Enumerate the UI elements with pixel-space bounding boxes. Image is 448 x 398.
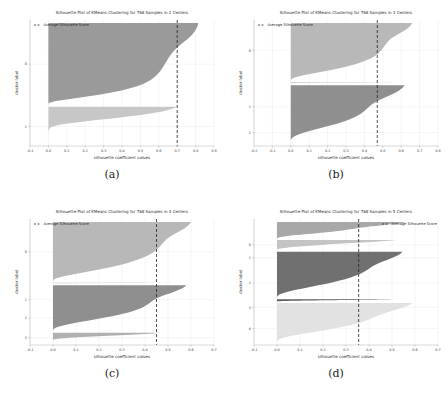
silhouette-chart-b: -0.2-0.10.00.10.20.30.40.50.60.70.8012Si…: [224, 0, 448, 170]
svg-text:0.8: 0.8: [435, 149, 440, 153]
panel-c: -0.10.00.10.20.30.40.50.60.70123Silhouet…: [0, 199, 224, 398]
svg-text:0.4: 0.4: [142, 348, 147, 352]
svg-text:cluster label: cluster label: [14, 71, 19, 96]
svg-text:0.2: 0.2: [325, 149, 330, 153]
panel-caption-a: (a): [0, 168, 224, 181]
silhouette-chart-d: -0.10.00.10.20.30.40.50.60.701234Silhoue…: [224, 199, 448, 369]
svg-text:Average Silhouette Score: Average Silhouette Score: [44, 222, 90, 226]
svg-text:1: 1: [25, 298, 27, 302]
svg-text:Average Silhouette Score: Average Silhouette Score: [392, 222, 438, 226]
svg-text:0.6: 0.6: [188, 348, 193, 352]
svg-text:0: 0: [25, 62, 27, 66]
svg-text:-0.2: -0.2: [251, 149, 258, 153]
svg-text:0.7: 0.7: [174, 149, 179, 153]
panel-caption-b: (b): [224, 168, 448, 181]
svg-text:2: 2: [249, 131, 251, 135]
svg-text:0.5: 0.5: [165, 348, 170, 352]
svg-text:-0.1: -0.1: [269, 149, 276, 153]
svg-text:0.5: 0.5: [389, 348, 394, 352]
svg-text:-0.1: -0.1: [251, 348, 258, 352]
svg-text:0.0: 0.0: [46, 149, 51, 153]
svg-text:silhouette coefficient values: silhouette coefficient values: [94, 354, 150, 359]
svg-text:1: 1: [25, 125, 27, 129]
svg-text:1: 1: [249, 256, 251, 260]
svg-text:cluster label: cluster label: [14, 270, 19, 295]
svg-text:2: 2: [249, 281, 251, 285]
svg-text:1: 1: [249, 105, 251, 109]
panel-caption-c: (c): [0, 367, 224, 380]
svg-text:0.3: 0.3: [119, 348, 124, 352]
svg-text:0.7: 0.7: [435, 348, 440, 352]
svg-text:0: 0: [249, 243, 251, 247]
svg-text:silhouette coefficient values: silhouette coefficient values: [318, 354, 374, 359]
svg-text:2: 2: [25, 316, 27, 320]
panel-d: -0.10.00.10.20.30.40.50.60.701234Silhoue…: [224, 199, 448, 398]
svg-text:-0.1: -0.1: [27, 149, 34, 153]
svg-text:0.1: 0.1: [64, 149, 69, 153]
svg-text:0.5: 0.5: [138, 149, 143, 153]
svg-text:0.5: 0.5: [380, 149, 385, 153]
svg-text:3: 3: [249, 306, 251, 310]
svg-text:cluster label: cluster label: [238, 270, 243, 295]
panel-a: -0.10.00.10.20.30.40.50.60.70.80.901Silh…: [0, 0, 224, 199]
svg-text:Silhouette Plot of KMeans Clus: Silhouette Plot of KMeans Clustering for…: [280, 209, 412, 214]
svg-text:0.4: 0.4: [362, 149, 367, 153]
svg-text:0.0: 0.0: [274, 348, 279, 352]
svg-text:0.0: 0.0: [50, 348, 55, 352]
svg-text:Silhouette Plot of KMeans Clus: Silhouette Plot of KMeans Clustering for…: [280, 10, 412, 15]
svg-text:0.6: 0.6: [412, 348, 417, 352]
svg-text:silhouette coefficient values: silhouette coefficient values: [318, 155, 374, 160]
silhouette-chart-a: -0.10.00.10.20.30.40.50.60.70.80.901Silh…: [0, 0, 224, 170]
svg-text:0.2: 0.2: [96, 348, 101, 352]
figure-grid: -0.10.00.10.20.30.40.50.60.70.80.901Silh…: [0, 0, 448, 398]
svg-text:4: 4: [249, 327, 251, 331]
svg-text:0.0: 0.0: [288, 149, 293, 153]
svg-text:0.3: 0.3: [101, 149, 106, 153]
svg-text:-0.1: -0.1: [27, 348, 34, 352]
svg-text:0.9: 0.9: [211, 149, 216, 153]
svg-text:0.2: 0.2: [320, 348, 325, 352]
svg-text:0.6: 0.6: [156, 149, 161, 153]
svg-text:0.4: 0.4: [119, 149, 124, 153]
svg-text:Silhouette Plot of KMeans Clus: Silhouette Plot of KMeans Clustering for…: [56, 209, 188, 214]
panel-b: -0.2-0.10.00.10.20.30.40.50.60.70.8012Si…: [224, 0, 448, 199]
svg-text:0.8: 0.8: [193, 149, 198, 153]
svg-text:Average Silhouette Score: Average Silhouette Score: [268, 23, 314, 27]
svg-text:0.1: 0.1: [297, 348, 302, 352]
svg-text:cluster label: cluster label: [238, 71, 243, 96]
svg-text:Average Silhouette Score: Average Silhouette Score: [44, 23, 90, 27]
svg-text:0.7: 0.7: [211, 348, 216, 352]
svg-text:0.2: 0.2: [82, 149, 87, 153]
svg-text:silhouette coefficient values: silhouette coefficient values: [94, 155, 150, 160]
svg-text:3: 3: [25, 336, 27, 340]
svg-text:0.3: 0.3: [343, 348, 348, 352]
svg-text:0.6: 0.6: [398, 149, 403, 153]
svg-text:0.3: 0.3: [343, 149, 348, 153]
svg-text:0: 0: [25, 250, 27, 254]
panel-caption-d: (d): [224, 367, 448, 380]
silhouette-chart-c: -0.10.00.10.20.30.40.50.60.70123Silhouet…: [0, 199, 224, 369]
svg-text:Silhouette Plot of KMeans Clus: Silhouette Plot of KMeans Clustering for…: [56, 10, 188, 15]
svg-text:0.1: 0.1: [73, 348, 78, 352]
svg-text:0.1: 0.1: [306, 149, 311, 153]
svg-text:0.7: 0.7: [417, 149, 422, 153]
svg-text:0: 0: [249, 49, 251, 53]
svg-text:0.4: 0.4: [366, 348, 371, 352]
